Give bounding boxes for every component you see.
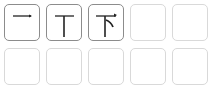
stroke-cell-4[interactable] (130, 4, 166, 41)
stroke-cell-5[interactable] (172, 4, 208, 41)
stroke-cell-6[interactable] (4, 48, 40, 85)
stroke-order-grid (4, 4, 208, 85)
stroke-cell-1[interactable] (4, 4, 40, 41)
stroke-cell-2[interactable] (46, 4, 82, 41)
stroke-step-3-icon (89, 5, 123, 40)
stroke-cell-9[interactable] (130, 48, 166, 85)
stroke-step-2-icon (47, 5, 81, 40)
stroke-step-1-icon (5, 5, 39, 40)
stroke-cell-8[interactable] (88, 48, 124, 85)
stroke-cell-7[interactable] (46, 48, 82, 85)
stroke-cell-3[interactable] (88, 4, 124, 41)
stroke-cell-10[interactable] (172, 48, 208, 85)
